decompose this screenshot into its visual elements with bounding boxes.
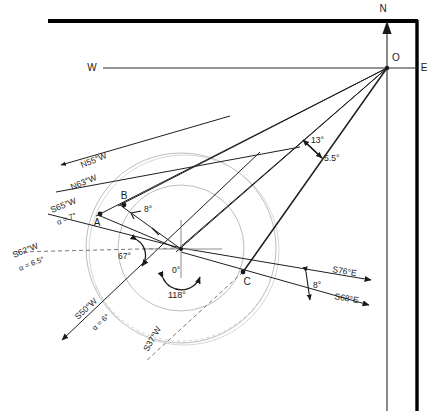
label-point-A: A <box>94 217 101 228</box>
label-angle-8-ab: 8° <box>144 204 152 214</box>
angle-center-tick <box>152 228 159 235</box>
label-origin-O: O <box>392 52 400 63</box>
label-s62w-alpha: α = 6.5° <box>17 255 45 273</box>
compass-letter-labels: N E W O <box>87 3 427 73</box>
label-angle-13: 13° <box>311 135 324 145</box>
page-frame <box>48 20 418 411</box>
label-point-C: C <box>243 276 250 287</box>
compass-axes <box>103 21 417 411</box>
arc-67-indicator <box>137 240 146 266</box>
angle-8-right-bar <box>306 272 310 300</box>
point-A-dot[interactable] <box>98 212 103 217</box>
label-s68e: S68°E <box>334 291 360 305</box>
label-east: E <box>421 62 428 73</box>
survey-bearing-diagram: N E W O A B C N55°W N63°W S65°W α = 7° S… <box>0 0 439 414</box>
label-n55w: N55°W <box>79 150 109 170</box>
point-B-dot[interactable] <box>122 203 127 208</box>
label-angle-8-right: 8° <box>313 280 321 290</box>
arc-118-indicator <box>163 277 200 290</box>
label-west: W <box>87 62 97 73</box>
line-center-to-A <box>98 215 181 250</box>
center-dot <box>179 247 183 251</box>
diagram-canvas: N E W O A B C N55°W N63°W S65°W α = 7° S… <box>0 0 439 414</box>
label-s65w-alpha: α = 7° <box>55 211 77 227</box>
bearing-lines <box>48 116 371 340</box>
label-angle-118: 118° <box>168 290 186 300</box>
point-C-dot[interactable] <box>241 270 246 275</box>
label-angle-67: 67° <box>118 251 131 261</box>
angle-8-markers <box>131 211 310 300</box>
label-s50w-alpha: α = 6° <box>90 312 111 332</box>
label-north: N <box>379 3 386 14</box>
label-n63w: N63°W <box>69 172 99 192</box>
label-point-B: B <box>121 190 128 201</box>
label-angle-5p5: 5.5° <box>324 153 339 163</box>
point-O-dot[interactable] <box>385 66 389 70</box>
center-crosshair <box>143 220 222 278</box>
ray-O-to-C <box>243 68 387 272</box>
label-angle-0: 0° <box>172 265 180 275</box>
angle-8-ab-tick <box>131 211 141 213</box>
angle-arc-arrows <box>137 240 200 290</box>
label-s76e: S76°E <box>332 264 358 278</box>
